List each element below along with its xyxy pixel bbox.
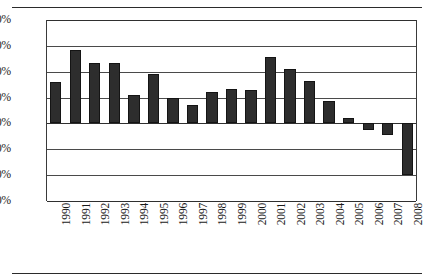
x-tick-label-2003: 2003 (315, 203, 327, 259)
bar-1998 (206, 92, 217, 123)
y-tick-label: 40% (0, 14, 11, 26)
bar-series (46, 20, 417, 201)
x-tick-label-1991: 1991 (81, 203, 93, 259)
gridline-neg30 (47, 201, 416, 202)
bar-2000 (245, 90, 256, 124)
x-tick-label-1996: 1996 (178, 203, 190, 259)
bar-2002 (284, 69, 295, 123)
y-tick-label: 30% (0, 40, 11, 52)
bar-2004 (323, 101, 334, 123)
y-tick-label: 10% (0, 92, 11, 104)
x-tick-label-2005: 2005 (354, 203, 366, 259)
x-tick-label-1990: 1990 (61, 203, 73, 259)
x-tick-label-1993: 1993 (120, 203, 132, 259)
bar-2003 (304, 81, 315, 124)
x-tick-label-2007: 2007 (393, 203, 405, 259)
y-tick-label: -20% (0, 169, 11, 181)
y-tick-label: 20% (0, 66, 11, 78)
bar-1993 (109, 63, 120, 124)
y-tick-label: 0% (0, 117, 11, 129)
x-tick-label-2006: 2006 (374, 203, 386, 259)
x-tick-label-2008: 2008 (413, 203, 425, 259)
bar-1995 (148, 74, 159, 123)
bar-1991 (70, 50, 81, 124)
bar-1999 (226, 89, 237, 124)
bar-2007 (382, 123, 393, 135)
x-tick-label-1992: 1992 (100, 203, 112, 259)
bar-2008 (402, 123, 413, 175)
y-tick-label: -30% (0, 195, 11, 207)
x-axis-tick-labels: 1990199119921993199419951996199719981999… (46, 203, 417, 269)
x-tick-label-2001: 2001 (276, 203, 288, 259)
bar-2001 (265, 57, 276, 123)
bar-1996 (167, 98, 178, 124)
bar-2006 (363, 123, 374, 129)
x-tick-label-1994: 1994 (139, 203, 151, 259)
x-tick-label-1998: 1998 (217, 203, 229, 259)
bar-1992 (89, 63, 100, 124)
x-tick-label-1997: 1997 (198, 203, 210, 259)
x-tick-label-2000: 2000 (257, 203, 269, 259)
x-tick-label-2004: 2004 (335, 203, 347, 259)
bar-1994 (128, 95, 139, 123)
bar-2005 (343, 118, 354, 123)
bar-chart-figure: 40%30%20%10%0%-10%-20%-30% 1990199119921… (0, 0, 432, 279)
bar-1990 (50, 82, 61, 123)
y-tick-label: -10% (0, 143, 11, 155)
figure-top-rule (12, 7, 422, 8)
figure-bottom-rule (12, 273, 422, 274)
x-tick-label-2002: 2002 (296, 203, 308, 259)
bar-1997 (187, 105, 198, 123)
x-tick-label-1995: 1995 (159, 203, 171, 259)
x-tick-label-1999: 1999 (237, 203, 249, 259)
